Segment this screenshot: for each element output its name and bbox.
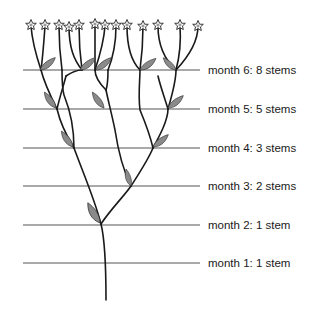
month-1-label: month 1: 1 stem xyxy=(208,256,290,270)
month-5-label: month 5: 5 stems xyxy=(208,102,296,116)
flowers xyxy=(26,19,204,32)
month-2-label: month 2: 1 stem xyxy=(208,218,290,232)
month-3-label: month 3: 2 stems xyxy=(208,179,296,193)
month-6-label: month 6: 8 stems xyxy=(208,63,296,77)
month-4-label: month 4: 3 stems xyxy=(208,141,296,155)
leaves xyxy=(38,58,186,224)
